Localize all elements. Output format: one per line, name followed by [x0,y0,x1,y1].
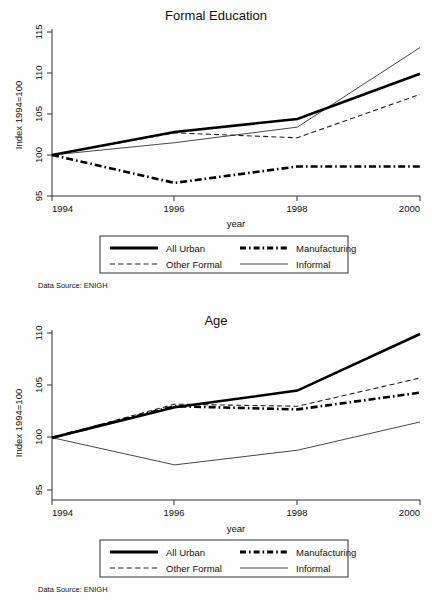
x-axis-label: year [227,218,245,229]
y-tick-label-105: 105 [33,377,44,393]
data-source-note: Data Source: ENIGH [38,281,108,290]
chart-panel-formal-education: Formal Education Index 1994=100 95 100 1… [0,0,432,303]
x-tick-label-2000: 2000 [399,507,420,518]
x-tick-label-1996: 1996 [163,203,184,214]
legend-label-informal: Informal [296,259,330,270]
series-line-all-urban [52,74,420,155]
y-tick-label-110: 110 [33,65,44,80]
x-tick-label-1994: 1994 [52,203,73,214]
legend-label-all-urban: All Urban [166,547,205,558]
series-line-all-urban [52,334,420,438]
series-line-other-formal [52,378,420,438]
legend-label-manufacturing: Manufacturing [296,243,356,254]
series-line-informal [52,422,420,465]
y-tick-label-110: 110 [33,325,44,340]
chart-title: Formal Education [165,8,267,23]
legend-label-other-formal: Other Formal [166,259,222,270]
age-svg: Age Index 1994=100 95 100 105 110 1994 1… [0,303,432,606]
legend-label-all-urban: All Urban [166,243,205,254]
y-axis-label: Index 1994=100 [13,81,24,149]
x-tick-label-1998: 1998 [286,507,307,518]
series-line-informal [52,48,420,155]
x-tick-label-1994: 1994 [52,507,73,518]
y-tick-label-100: 100 [33,429,44,445]
x-tick-label-1996: 1996 [163,507,184,518]
y-tick-label-105: 105 [33,106,44,122]
x-tick-label-2000: 2000 [399,203,420,214]
y-tick-label-95: 95 [33,191,44,202]
x-axis-label: year [227,523,245,534]
y-tick-label-115: 115 [33,24,44,39]
y-tick-label-100: 100 [33,147,44,163]
x-tick-label-1998: 1998 [286,203,307,214]
y-axis-label: Index 1994=100 [13,389,24,457]
legend-label-manufacturing: Manufacturing [296,547,356,558]
figure-page: Formal Education Index 1994=100 95 100 1… [0,0,432,606]
legend-label-other-formal: Other Formal [166,563,222,574]
chart-panel-age: Age Index 1994=100 95 100 105 110 1994 1… [0,303,432,606]
formal-education-svg: Formal Education Index 1994=100 95 100 1… [0,0,432,303]
y-tick-label-95: 95 [33,485,44,496]
legend-label-informal: Informal [296,563,330,574]
chart-title: Age [204,313,227,328]
series-line-manufacturing [52,155,420,183]
data-source-note: Data Source: ENIGH [38,585,108,594]
